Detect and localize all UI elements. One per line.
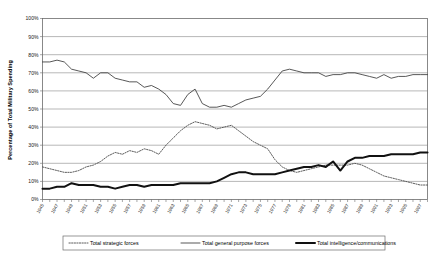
legend-label-3: Total intelligence/communications [317, 240, 396, 246]
y-tick-label: 10% [28, 178, 39, 184]
x-tick-label: 1983 [311, 203, 321, 215]
x-tick-label: 1997 [413, 203, 423, 215]
x-tick-label: 1959 [137, 203, 147, 215]
y-tick-label: 40% [28, 124, 39, 130]
x-tick-label: 1991 [370, 203, 380, 215]
y-tick-label: 50% [28, 106, 39, 112]
x-axis-tick-labels: 1945194719491951195319551957195919611963… [35, 203, 422, 215]
x-tick-label: 1961 [152, 203, 162, 215]
y-tick-label: 20% [28, 160, 39, 166]
x-tick-label: 1995 [399, 203, 409, 215]
y-tick-label: 0% [31, 196, 39, 202]
series-line-total-intelligence-communications [43, 152, 428, 188]
x-tick-label: 1985 [326, 203, 336, 215]
y-tick-label: 80% [28, 52, 39, 58]
x-tick-label: 1969 [210, 203, 220, 215]
series-line-total-general-purpose-forces [43, 60, 428, 107]
x-tick-label: 1987 [341, 203, 351, 215]
y-tick-label: 70% [28, 70, 39, 76]
x-tick-label: 1989 [355, 203, 365, 215]
y-tick-label: 100% [25, 15, 38, 21]
y-tick-label: 90% [28, 34, 39, 40]
spending-line-chart: 0%10%20%30%40%50%60%70%80%90%100% 194519… [0, 0, 445, 266]
x-tick-label: 1963 [166, 203, 176, 215]
chart-container: 0%10%20%30%40%50%60%70%80%90%100% 194519… [0, 0, 445, 266]
legend-label-2: Total general purpose forces [202, 240, 269, 246]
y-axis-tick-labels: 0%10%20%30%40%50%60%70%80%90%100% [25, 15, 38, 202]
series-line-total-strategic-forces [43, 122, 428, 185]
x-tick-label: 1955 [108, 203, 118, 215]
x-tick-label: 1993 [384, 203, 394, 215]
x-tick-label: 1947 [50, 203, 60, 215]
x-tick-label: 1975 [253, 203, 263, 215]
x-tick-label: 1951 [79, 203, 89, 215]
x-tick-label: 1965 [181, 203, 191, 215]
x-tick-label: 1949 [64, 203, 74, 215]
x-tick-label: 1977 [268, 203, 278, 215]
x-tick-label: 1981 [297, 203, 307, 215]
y-tick-label: 30% [28, 142, 39, 148]
gridlines [43, 37, 428, 182]
x-tick-label: 1957 [123, 203, 133, 215]
legend-label-1: Total strategic forces [90, 240, 139, 246]
y-axis-title: Percentage of Total Military Spending [7, 60, 13, 160]
x-tick-label: 1979 [282, 203, 292, 215]
x-tick-label: 1945 [35, 203, 45, 215]
x-tick-label: 1971 [224, 203, 234, 215]
x-tick-label: 1967 [195, 203, 205, 215]
x-tick-label: 1953 [94, 203, 104, 215]
x-tick-label: 1973 [239, 203, 249, 215]
series-layer [43, 60, 428, 189]
y-tick-label: 60% [28, 88, 39, 94]
chart-legend: Total strategic forcesTotal general purp… [63, 236, 396, 250]
